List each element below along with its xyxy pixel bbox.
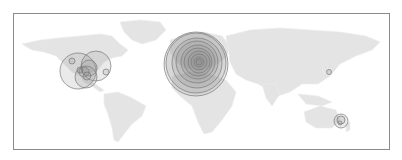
europe-cluster[interactable]	[164, 32, 228, 96]
landmass-southeast-asia-islands	[298, 94, 332, 106]
landmass-asia	[226, 28, 380, 96]
landmass-south-america	[104, 92, 146, 142]
data-circle-marker[interactable]	[338, 121, 342, 125]
data-circle-marker[interactable]	[103, 69, 109, 75]
world-map[interactable]	[0, 0, 402, 160]
data-circle-marker[interactable]	[196, 59, 202, 65]
data-circle-marker[interactable]	[83, 72, 91, 80]
landmass-greenland	[120, 20, 166, 44]
data-circle-marker[interactable]	[327, 70, 332, 75]
north-america-cluster[interactable]	[60, 51, 111, 89]
data-circle-marker[interactable]	[77, 67, 83, 73]
new-zealand-cluster[interactable]	[334, 114, 348, 128]
japan-marker[interactable]	[327, 70, 332, 75]
data-circle-marker[interactable]	[69, 58, 75, 64]
landmass-india	[262, 84, 280, 106]
landmass-australia	[304, 106, 340, 128]
